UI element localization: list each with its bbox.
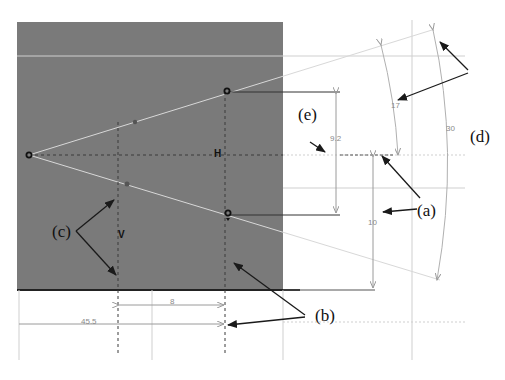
sketch-panel — [17, 22, 283, 290]
sketch-diagram: H V 9.2 10 17 30 8 45.5 (e) (d) (a) (c) … — [0, 0, 505, 380]
midpoint-lower-glyph — [125, 182, 130, 187]
callout-a: (a) — [417, 202, 436, 219]
dimension-label-9-2: 9.2 — [330, 135, 341, 143]
horizontal-constraint-glyph: H — [214, 149, 221, 159]
midpoint-upper-glyph — [133, 120, 137, 124]
callout-c: (c) — [52, 223, 71, 240]
callout-e: (e) — [298, 106, 317, 123]
dimension-label-17: 17 — [391, 102, 400, 110]
vertical-constraint-glyph: V — [118, 230, 125, 240]
arc-dimension-17 — [381, 45, 398, 155]
callout-d: (d) — [470, 128, 490, 145]
dimension-label-8: 8 — [170, 298, 174, 306]
dimension-label-30: 30 — [446, 125, 455, 133]
dimension-label-10: 10 — [368, 219, 377, 227]
callout-b: (b) — [315, 307, 335, 324]
dimension-label-45-5: 45.5 — [81, 318, 97, 326]
